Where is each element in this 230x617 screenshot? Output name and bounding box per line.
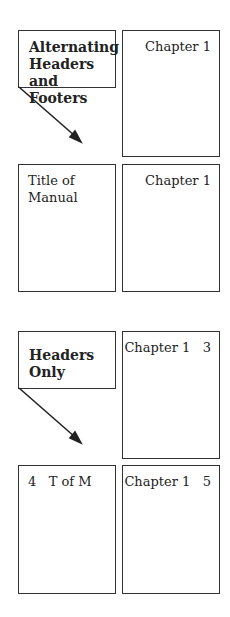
- arrows-layer: [0, 0, 230, 617]
- arrow-icon: [19, 87, 81, 142]
- arrow-icon: [19, 388, 81, 443]
